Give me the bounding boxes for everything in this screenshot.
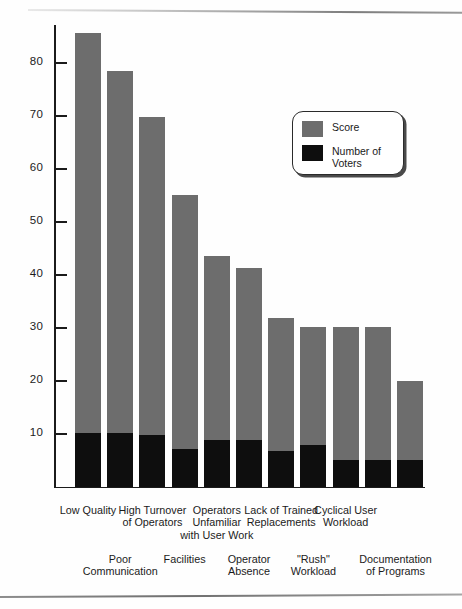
legend-label: Score (332, 121, 359, 134)
legend-item-1: Number of Voters (302, 145, 381, 169)
bar-4 (204, 256, 230, 486)
bar-segment-score (107, 71, 133, 433)
bar-segment-voters (107, 433, 133, 486)
bar-10 (397, 381, 423, 486)
bar-5 (236, 268, 262, 487)
bar-segment-score (75, 33, 101, 434)
bar-2 (139, 117, 165, 487)
bar-0 (75, 33, 101, 487)
legend-label: Number of Voters (332, 145, 381, 169)
bar-segment-score (204, 256, 230, 440)
legend-item-0: Score (302, 121, 359, 137)
bar-segment-voters (236, 440, 262, 487)
bar-segment-score (333, 327, 359, 460)
bar-6 (268, 318, 294, 487)
bar-segment-voters (139, 435, 165, 487)
bar-segment-voters (300, 445, 326, 486)
chart-legend: ScoreNumber of Voters (292, 111, 404, 175)
bar-segment-voters (172, 449, 198, 486)
bar-group (0, 0, 462, 487)
plot-area: 8070605040302010 ScoreNumber of Voters (0, 0, 462, 500)
category-label-top-4: Cyclical User Workload (298, 504, 394, 529)
bar-segment-score (236, 268, 262, 440)
bar-segment-voters (204, 440, 230, 487)
voters-swatch (302, 145, 323, 161)
bar-9 (365, 327, 391, 486)
bar-3 (172, 195, 198, 487)
bar-segment-voters (75, 433, 101, 486)
bar-segment-score (172, 195, 198, 450)
page-edge-bottom (0, 594, 462, 598)
bar-segment-score (139, 117, 165, 435)
score-swatch (302, 121, 323, 137)
bar-segment-voters (333, 460, 359, 487)
bar-8 (333, 327, 359, 486)
bar-7 (300, 327, 326, 486)
bar-segment-voters (397, 460, 423, 487)
bar-1 (107, 71, 133, 486)
bar-segment-voters (365, 460, 391, 487)
bar-segment-voters (268, 451, 294, 487)
bar-segment-score (268, 318, 294, 451)
bar-segment-score (365, 327, 391, 460)
bar-segment-score (300, 327, 326, 445)
category-label-bottom-4: Documentation of Programs (348, 553, 444, 578)
bar-segment-score (397, 381, 423, 460)
chart-page: 8070605040302010 ScoreNumber of Voters L… (0, 0, 462, 609)
